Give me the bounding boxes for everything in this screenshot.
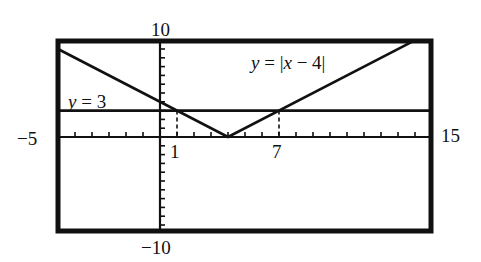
abs-value-curve (58, 41, 413, 137)
xmax-label: 15 (441, 126, 460, 145)
equation-label-abs-x-minus-4: y = |x − 4| (251, 53, 325, 72)
intersection-x-label-1: 1 (170, 142, 180, 161)
intersection-x-label-2: 7 (272, 142, 282, 161)
var-x: x (283, 52, 291, 73)
eq-rest: = 3 (76, 91, 106, 112)
xmin-label: −5 (17, 129, 37, 148)
eq-mid: = | (259, 52, 283, 73)
ymin-label: −10 (141, 238, 171, 257)
equation-label-y-equals-3: y = 3 (68, 92, 106, 111)
plot-area (0, 0, 481, 262)
graphing-calculator-window: 10 −10 −5 15 1 7 y = 3 y = |x − 4| (0, 0, 481, 262)
eq-rest: − 4| (292, 52, 326, 73)
axes (58, 41, 431, 231)
ymax-label: 10 (151, 20, 170, 39)
series-lines (56, 41, 430, 137)
